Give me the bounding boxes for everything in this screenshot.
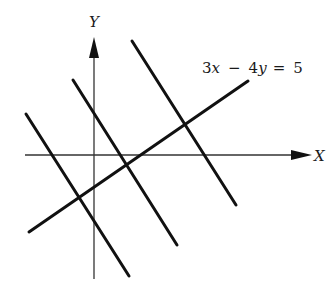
x-axis-label: X xyxy=(313,147,326,165)
x-axis-arrow-icon xyxy=(291,150,312,160)
perpendicular-line-1 xyxy=(26,114,129,276)
perpendicular-line-2 xyxy=(73,80,177,245)
eq-equals: = xyxy=(273,59,286,77)
line-3x-4y-5 xyxy=(29,81,248,232)
eq-minus: − xyxy=(228,59,241,77)
equation-label: 3x−4y=5 xyxy=(202,59,303,77)
y-axis-arrow-icon xyxy=(89,37,99,58)
eq-coef-1: 3 xyxy=(202,59,212,77)
coordinate-diagram: Y X 3x−4y=5 xyxy=(0,0,334,283)
perpendicular-line-3 xyxy=(132,41,236,205)
x-axis xyxy=(25,150,312,160)
eq-coef-2: 4 xyxy=(249,59,259,77)
y-axis xyxy=(89,37,99,279)
y-axis-label: Y xyxy=(89,13,101,31)
eq-rhs: 5 xyxy=(293,59,303,77)
eq-var-x: x xyxy=(212,59,221,77)
eq-var-y: y xyxy=(257,59,267,77)
